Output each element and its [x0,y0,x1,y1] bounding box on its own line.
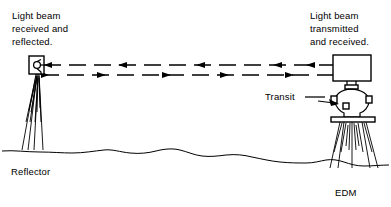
left-caption-line-3: reflected. [12,36,53,47]
right-caption: Light beam transmitted and received. [310,10,369,47]
transit-label: Transit [265,91,295,102]
diagram-canvas: Light beam received and reflected. Light… [0,0,391,207]
left-caption-line-1: Light beam [12,10,61,21]
transit-eyepiece [343,103,349,109]
edm-instrument [330,55,378,168]
transit-knob-right [366,96,372,103]
left-caption-line-2: received and [12,23,68,34]
reflector-label: Reflector [11,166,50,177]
reflector-instrument [22,56,44,150]
transmitted-beam [41,72,333,78]
return-beam-arrowhead [273,62,282,68]
right-caption-line-1: Light beam [310,10,359,21]
right-caption-line-2: transmitted [310,23,359,34]
return-beam-arrowhead [44,62,52,68]
return-beam-arrowhead [306,62,315,68]
transmitted-beam-arrowhead [162,72,171,78]
return-beam-arrowhead [118,62,127,68]
right-caption-line-3: and received. [310,36,369,47]
return-beam-arrowhead [196,62,205,68]
reflector-tripod [22,74,43,150]
transit-callout: Transit [265,91,339,106]
transmitted-beam-arrowhead [220,72,229,78]
edm-diagram: Light beam received and reflected. Light… [0,0,391,207]
left-caption: Light beam received and reflected. [12,10,68,47]
return-beam [44,62,333,68]
transmitted-beam-arrowhead [97,72,106,78]
tripod-head-plate [331,117,375,122]
edm-label: EDM [335,187,357,198]
light-beam-group [41,62,333,78]
transmitted-beam-arrowhead [285,72,294,78]
edm-box [333,55,371,81]
edm-tripod [330,122,378,168]
transit-body [335,89,369,117]
